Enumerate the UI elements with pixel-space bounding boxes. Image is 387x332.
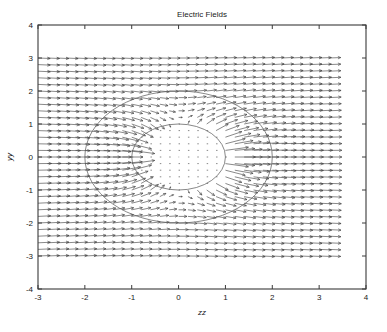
quiver-arrows (38, 56, 342, 257)
x-tick-label: 4 (364, 293, 369, 302)
x-tick-label: 2 (270, 293, 275, 302)
electric-field-plot: Electric Fields-3-2-101234-4-3-2-101234z… (0, 0, 387, 332)
x-axis-label: zz (197, 308, 206, 317)
y-tick-label: -3 (26, 252, 34, 261)
y-tick-label: 2 (29, 87, 34, 96)
figure-canvas: Electric Fields-3-2-101234-4-3-2-101234z… (0, 0, 387, 332)
y-axis-label: yy (5, 152, 14, 162)
y-tick-label: 4 (29, 21, 34, 30)
y-tick-label: 3 (29, 54, 34, 63)
y-tick-label: 0 (29, 153, 34, 162)
x-tick-label: -2 (81, 293, 89, 302)
x-tick-label: 1 (223, 293, 228, 302)
y-tick-label: -2 (26, 219, 34, 228)
chart-title: Electric Fields (177, 10, 227, 19)
x-tick-label: 0 (176, 293, 181, 302)
quiver-field-layer (38, 56, 342, 257)
y-tick-label: 1 (29, 120, 34, 129)
y-tick-label: -1 (26, 186, 34, 195)
x-tick-label: -1 (128, 293, 136, 302)
x-tick-label: 3 (317, 293, 322, 302)
y-tick-label: -4 (26, 285, 34, 294)
x-tick-label: -3 (34, 293, 42, 302)
